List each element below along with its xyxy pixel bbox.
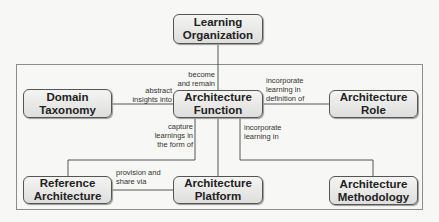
edge-label-incorporate-learning-in: incorporate learning in (244, 123, 282, 141)
node-architecture-methodology[interactable]: Architecture Methodology (329, 176, 418, 205)
edge-label-provision-and-share-via: provision and share via (116, 168, 161, 186)
node-label: Role (340, 104, 408, 117)
node-label: Organization (183, 29, 253, 42)
node-label: Architecture (340, 91, 408, 104)
edge-label-abstract-insights-into: abstract insights into (120, 86, 172, 104)
node-label: Architecture (338, 178, 410, 191)
node-label: Methodology (338, 191, 410, 204)
edge-label-capture-learnings: capture learnings in the form of (140, 122, 193, 149)
node-learning-organization[interactable]: Learning Organization (173, 14, 263, 44)
node-label: Architecture (184, 91, 252, 104)
node-architecture-function[interactable]: Architecture Function (173, 90, 263, 118)
node-label: Function (184, 104, 252, 117)
node-label: Platform (184, 190, 252, 203)
edge-label-incorporate-learning-in-definition-of: incorporate learning in definition of (266, 76, 304, 103)
node-label: Architecture (34, 190, 102, 203)
node-label: Taxonomy (39, 104, 96, 117)
node-architecture-platform[interactable]: Architecture Platform (173, 176, 263, 204)
node-label: Learning (183, 16, 253, 29)
node-reference-architecture[interactable]: Reference Architecture (23, 176, 112, 204)
node-domain-taxonomy[interactable]: Domain Taxonomy (23, 89, 112, 118)
node-architecture-role[interactable]: Architecture Role (329, 90, 418, 118)
node-label: Reference (34, 177, 102, 190)
node-label: Domain (39, 91, 96, 104)
edge-label-become-and-remain: become and remain (168, 70, 215, 88)
node-label: Architecture (184, 177, 252, 190)
